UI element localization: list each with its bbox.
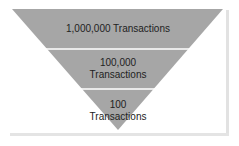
level-3-unit: Transactions: [78, 111, 158, 123]
level-3-label: 100 Transactions: [78, 99, 158, 123]
funnel-diagram: 1,000,000 Transactions 100,000 Transacti…: [0, 0, 239, 146]
level-3-count: 100: [78, 99, 158, 111]
level-1-label: 1,000,000 Transactions: [40, 23, 196, 35]
level-2-count: 100,000: [70, 57, 166, 69]
level-2-label: 100,000 Transactions: [70, 57, 166, 81]
level-2-unit: Transactions: [70, 69, 166, 81]
level-1-text: 1,000,000 Transactions: [66, 23, 170, 34]
